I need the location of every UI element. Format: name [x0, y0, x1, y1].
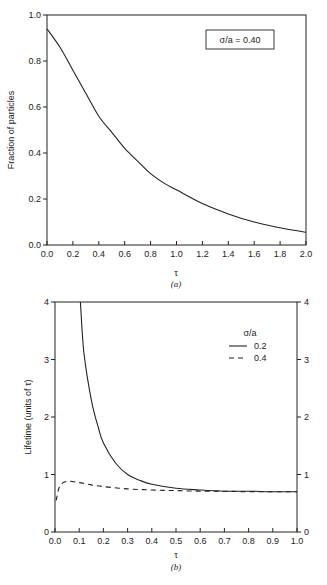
x-tick-label: 1.4 — [222, 249, 235, 259]
right-y-tick-label: 1 — [304, 470, 309, 480]
x-tick-label: 1.2 — [196, 249, 209, 259]
x-tick-label: 0.6 — [118, 249, 131, 259]
panel-a-x-axis-label: τ — [174, 268, 178, 278]
x-tick-label: 0.1 — [73, 536, 86, 546]
panel-b-y-ticks: 0123401234 — [44, 297, 309, 537]
y-tick-label: 1 — [44, 470, 49, 480]
x-tick-label: 0.7 — [218, 536, 231, 546]
panel-b-caption: (b) — [171, 562, 182, 572]
panel-a-chart: 0.00.20.40.60.81.01.21.41.61.82.0 0.00.2… — [6, 10, 312, 289]
series-0.4-curve — [56, 481, 297, 500]
x-tick-label: 0.8 — [144, 249, 157, 259]
panel-b-plot-frame — [55, 302, 297, 532]
y-tick-label: 0 — [44, 527, 49, 537]
panel-a-x-ticks: 0.00.20.40.60.81.01.21.41.61.82.0 — [41, 241, 313, 259]
panel-a-curve — [47, 29, 306, 233]
panel-a-annotation: σ/a = 0.40 — [220, 35, 261, 45]
figure: 0.00.20.40.60.81.01.21.41.61.82.0 0.00.2… — [0, 0, 327, 585]
y-tick-label: 0.6 — [28, 102, 41, 112]
right-y-tick-label: 2 — [304, 412, 309, 422]
panel-b-y-axis-label: Lifetime (units of τ) — [23, 379, 33, 454]
x-tick-label: 0.3 — [121, 536, 134, 546]
y-tick-label: 1.0 — [28, 10, 41, 20]
y-tick-label: 0.4 — [28, 148, 41, 158]
panel-a-caption: (a) — [171, 279, 182, 289]
x-tick-label: 0.4 — [146, 536, 159, 546]
panel-b-curves — [56, 302, 297, 500]
y-tick-label: 2 — [44, 412, 49, 422]
panel-b-legend: σ/a 0.2 0.4 — [229, 328, 267, 363]
panel-b-legend-item-2: 0.4 — [254, 353, 267, 363]
panel-b-x-ticks: 0.00.10.20.30.40.50.60.70.80.91.0 — [49, 528, 304, 546]
x-tick-label: 0.6 — [194, 536, 207, 546]
x-tick-label: 0.4 — [93, 249, 106, 259]
right-y-tick-label: 4 — [304, 297, 309, 307]
x-tick-label: 0.8 — [242, 536, 255, 546]
panel-b-x-axis-label: τ — [174, 550, 178, 560]
x-tick-label: 2.0 — [300, 249, 313, 259]
right-y-tick-label: 3 — [304, 355, 309, 365]
panel-b-legend-item-1: 0.2 — [254, 341, 267, 351]
panel-b-chart: 0.00.10.20.30.40.50.60.70.80.91.0 012340… — [23, 297, 309, 572]
x-tick-label: 1.0 — [291, 536, 304, 546]
x-tick-label: 0.9 — [267, 536, 280, 546]
y-tick-label: 3 — [44, 355, 49, 365]
x-tick-label: 0.0 — [41, 249, 54, 259]
panel-a-y-axis-label: Fraction of particles — [6, 90, 16, 169]
x-tick-label: 0.2 — [97, 536, 110, 546]
x-tick-label: 1.0 — [170, 249, 183, 259]
panel-a-plot-frame — [47, 15, 306, 245]
panel-b-legend-title: σ/a — [243, 328, 256, 338]
panel-a-y-ticks: 0.00.20.40.60.81.0 — [28, 10, 47, 250]
y-tick-label: 0.2 — [28, 194, 41, 204]
y-tick-label: 4 — [44, 297, 49, 307]
y-tick-label: 0.0 — [28, 240, 41, 250]
y-tick-label: 0.8 — [28, 56, 41, 66]
x-tick-label: 0.5 — [170, 536, 183, 546]
series-0.2-curve — [80, 302, 297, 492]
x-tick-label: 0.2 — [67, 249, 80, 259]
x-tick-label: 0.0 — [49, 536, 62, 546]
x-tick-label: 1.8 — [274, 249, 287, 259]
x-tick-label: 1.6 — [248, 249, 261, 259]
right-y-tick-label: 0 — [304, 527, 309, 537]
